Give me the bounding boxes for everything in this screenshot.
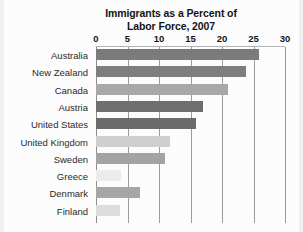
x-tick-label-5: 5 — [125, 33, 130, 44]
bar-row — [96, 136, 285, 147]
bar-row — [96, 118, 285, 129]
bar-row — [96, 187, 285, 198]
x-tick-label-15: 15 — [185, 33, 196, 44]
x-tick-label-0: 0 — [93, 33, 98, 44]
y-tick-label-sweden: Sweden — [54, 155, 88, 165]
y-tick-label-united-states: United States — [31, 120, 88, 130]
x-axis-tick-labels: 051015202530 — [0, 33, 303, 46]
bar-united-kingdom — [96, 136, 170, 147]
bar-sweden — [96, 153, 165, 164]
bar-row — [96, 49, 285, 60]
plot-area — [96, 47, 285, 223]
chart-title-line-2: Labor Force, 2007 — [56, 20, 286, 33]
gridline-30 — [285, 47, 286, 223]
bar-row — [96, 66, 285, 77]
bar-canada — [96, 84, 228, 95]
y-tick-label-united-kingdom: United Kingdom — [20, 138, 88, 148]
bar-row — [96, 205, 285, 216]
y-tick-label-australia: Australia — [51, 51, 88, 61]
bar-finland — [96, 205, 120, 216]
bar-austria — [96, 101, 203, 112]
x-tick-label-30: 30 — [280, 33, 291, 44]
chart-title-line-1: Immigrants as a Percent of — [56, 7, 286, 20]
y-tick-label-denmark: Denmark — [49, 189, 88, 199]
y-tick-label-finland: Finland — [57, 207, 88, 217]
x-tick-label-10: 10 — [154, 33, 165, 44]
y-tick-label-new-zealand: New Zealand — [32, 68, 88, 78]
x-tick-label-25: 25 — [248, 33, 259, 44]
bar-row — [96, 170, 285, 181]
y-tick-label-austria: Austria — [58, 103, 88, 113]
bar-row — [96, 101, 285, 112]
bar-greece — [96, 170, 121, 181]
bar-united-states — [96, 118, 196, 129]
bar-row — [96, 84, 285, 95]
bar-row — [96, 153, 285, 164]
bar-new-zealand — [96, 66, 246, 77]
chart-title: Immigrants as a Percent of Labor Force, … — [56, 7, 286, 32]
y-tick-label-greece: Greece — [57, 172, 88, 182]
bar-chart: Immigrants as a Percent of Labor Force, … — [0, 0, 303, 232]
bar-australia — [96, 49, 259, 60]
y-tick-label-canada: Canada — [55, 86, 88, 96]
bar-denmark — [96, 187, 140, 198]
x-tick-label-20: 20 — [217, 33, 228, 44]
y-axis-category-labels: AustraliaNew ZealandCanadaAustriaUnited … — [0, 48, 92, 223]
bars-layer — [96, 47, 285, 223]
